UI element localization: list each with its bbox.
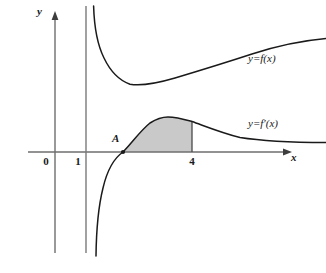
curve-f-label: y=f(x) <box>248 53 276 64</box>
tick-label-1: 1 <box>73 156 83 167</box>
point-a-label: A <box>112 133 119 144</box>
point-a-marker <box>121 150 125 154</box>
curve-f-prime <box>96 117 326 256</box>
y-axis-label: y <box>37 6 42 17</box>
curve-f <box>94 6 326 85</box>
shaded-region <box>123 117 192 152</box>
curve-f-prime-label: y=f′(x) <box>248 118 278 129</box>
tick-label-4: 4 <box>187 156 197 167</box>
math-figure: y x 0 1 4 A y=f(x) y=f′(x) <box>0 0 326 273</box>
tick-label-origin: 0 <box>41 156 51 167</box>
x-axis-label: x <box>291 152 297 163</box>
y-axis-arrow-icon <box>52 11 59 20</box>
figure-canvas <box>0 0 326 273</box>
